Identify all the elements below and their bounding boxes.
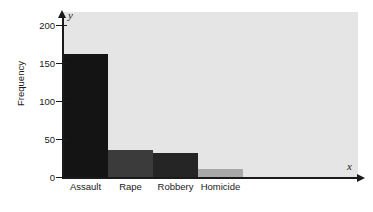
x-axis-end-label: x (347, 161, 352, 172)
y-tick-0 (56, 177, 67, 178)
y-axis-end-label: y (68, 10, 73, 21)
bar-assault (63, 54, 108, 177)
bar-chart: y x Frequency 0 50 100 150 200 Assault R… (0, 0, 373, 212)
y-tick-50 (56, 139, 67, 140)
x-category-label-rape: Rape (108, 182, 153, 192)
x-axis-line (62, 177, 358, 179)
bar-homicide (198, 169, 243, 177)
x-category-label-homicide: Homicide (198, 182, 243, 192)
y-axis-arrow-icon (58, 10, 66, 18)
y-tick-150 (56, 63, 67, 64)
y-tick-label-100: 100 (39, 97, 55, 107)
bar-robbery (153, 153, 198, 177)
x-axis-arrow-icon (357, 174, 365, 182)
x-category-label-assault: Assault (63, 182, 108, 192)
y-tick-label-0: 0 (50, 173, 55, 183)
y-tick-label-200: 200 (39, 21, 55, 31)
y-tick-label-150: 150 (39, 59, 55, 69)
y-axis-line (62, 17, 64, 177)
y-tick-100 (56, 101, 67, 102)
y-axis-title: Frequency (15, 44, 26, 124)
x-category-label-robbery: Robbery (153, 182, 198, 192)
bar-rape (108, 150, 153, 177)
y-tick-label-50: 50 (44, 135, 55, 145)
y-tick-200 (56, 25, 67, 26)
